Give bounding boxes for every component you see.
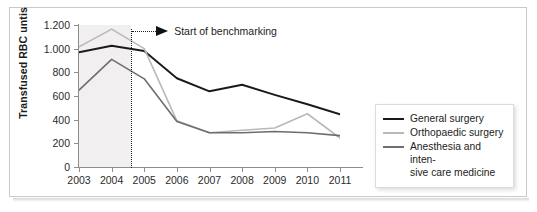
- legend-label-orthopaedic-surgery: Orthopaedic surgery: [410, 126, 503, 139]
- y-axis-tick-label: 600: [2, 91, 70, 101]
- legend-item-orthopaedic-surgery: Orthopaedic surgery: [383, 126, 505, 139]
- x-axis-tick-label: 2011: [320, 174, 360, 186]
- benchmark-leader-line: [132, 31, 156, 32]
- y-axis-tick: [74, 72, 78, 73]
- chart-legend: General surgery Orthopaedic surgery Anes…: [375, 104, 514, 188]
- figure-shadow: [13, 198, 529, 202]
- legend-item-anesthesia-icu: Anesthesia and inten-sive care medicine: [383, 140, 505, 179]
- x-axis-tick: [275, 168, 276, 172]
- series-line-anesthesia-and-inten-sive-care-medicine: [79, 59, 340, 135]
- plot-lines: [79, 25, 340, 167]
- y-axis-tick-label: 1.000: [2, 44, 70, 54]
- benchmark-annotation-label: Start of benchmarking: [174, 25, 277, 37]
- x-axis-tick: [242, 168, 243, 172]
- x-axis-tick: [79, 168, 80, 172]
- legend-swatch-orthopaedic-surgery: [383, 132, 404, 134]
- legend-label-general-surgery: General surgery: [410, 112, 484, 125]
- y-axis-tick: [74, 143, 78, 144]
- benchmark-arrow-icon: [156, 26, 168, 36]
- legend-label-anesthesia-icu-line1: Anesthesia and inten-: [410, 141, 481, 165]
- x-axis-line: [78, 167, 363, 168]
- x-axis-tick: [177, 168, 178, 172]
- y-axis-tick-label: 0: [2, 162, 70, 172]
- legend-label-anesthesia-icu-line2: sive care medicine: [410, 167, 495, 178]
- y-axis-tick-label: 200: [2, 138, 70, 148]
- chart-figure: Transfused RBC untis 02004006008001.0001…: [0, 0, 537, 212]
- series-line-orthopaedic-surgery: [79, 29, 340, 138]
- legend-swatch-general-surgery: [383, 118, 404, 120]
- legend-swatch-anesthesia-icu: [383, 146, 404, 148]
- y-axis-tick-label: 800: [2, 67, 70, 77]
- y-axis-tick: [74, 96, 78, 97]
- y-axis-tick: [74, 25, 78, 26]
- x-axis-tick: [307, 168, 308, 172]
- legend-item-general-surgery: General surgery: [383, 112, 505, 125]
- y-axis-tick: [74, 167, 78, 168]
- series-line-general-surgery: [79, 46, 340, 115]
- y-axis-tick: [74, 49, 78, 50]
- legend-label-anesthesia-icu: Anesthesia and inten-sive care medicine: [410, 140, 505, 179]
- x-axis-tick: [340, 168, 341, 172]
- x-axis-tick: [210, 168, 211, 172]
- y-axis-tick: [74, 120, 78, 121]
- x-axis-tick: [144, 168, 145, 172]
- y-axis-tick-label: 1.200: [2, 20, 70, 30]
- benchmark-vertical-line: [131, 29, 132, 168]
- y-axis-tick-label: 400: [2, 115, 70, 125]
- x-axis-tick: [112, 168, 113, 172]
